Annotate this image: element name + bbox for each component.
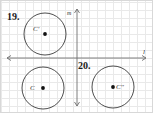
y-axis-label: m (67, 10, 71, 16)
circle-lower-right (92, 66, 134, 108)
coordinate-axes (0, 0, 153, 113)
circle-upper-left (24, 13, 66, 55)
y-axis (75, 9, 80, 106)
center-point-c-double-prime (111, 85, 115, 89)
circle-lower-left (22, 67, 64, 109)
exercise-number-19: 19. (7, 12, 20, 22)
circle-label-c-prime: C' (33, 26, 39, 33)
center-point-c (41, 86, 45, 90)
exercise-number-20: 20. (78, 61, 91, 71)
x-axis (7, 56, 146, 61)
x-axis-label: l (143, 49, 145, 56)
circle-label-c-double-prime: C'' (116, 84, 124, 91)
circle-label-c: C (30, 85, 35, 92)
figure-canvas: m l 19. 20. C' C C'' (0, 0, 153, 113)
center-point-c-prime (43, 32, 47, 36)
